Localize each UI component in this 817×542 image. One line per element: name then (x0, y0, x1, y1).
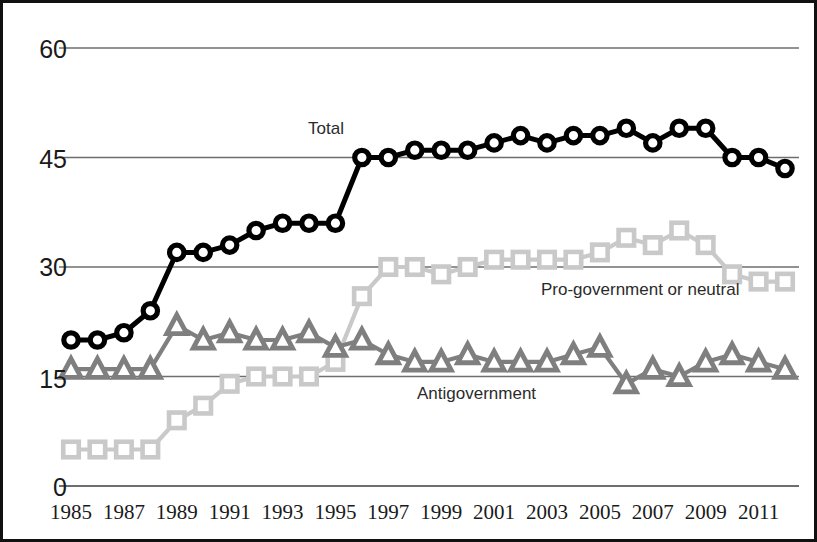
data-point (116, 442, 132, 458)
data-point (698, 237, 714, 253)
x-axis-tick-1989: 1989 (147, 500, 207, 525)
data-point (170, 245, 184, 259)
line-chart-plot (3, 3, 817, 542)
series-label-total: Total (308, 119, 344, 139)
data-point (778, 161, 792, 175)
data-point (698, 121, 712, 135)
x-axis-tick-2011: 2011 (729, 500, 789, 525)
data-point (696, 351, 716, 370)
x-axis-tick-1997: 1997 (358, 500, 418, 525)
data-point (90, 333, 104, 347)
data-point (222, 376, 238, 392)
data-point (487, 136, 501, 150)
data-point (672, 121, 686, 135)
x-axis-tick-1987: 1987 (94, 500, 154, 525)
data-point (273, 329, 293, 348)
data-point (619, 121, 633, 135)
x-axis-tick-1985: 1985 (41, 500, 101, 525)
series-label-pro-government: Pro-government or neutral (541, 280, 739, 300)
data-point (408, 143, 422, 157)
data-point (169, 413, 185, 429)
x-axis-tick-2001: 2001 (464, 500, 524, 525)
data-point (87, 359, 107, 378)
series-label-antigovernment: Antigovernment (417, 384, 536, 404)
data-point (299, 322, 319, 341)
data-point (246, 329, 266, 348)
data-point (511, 351, 531, 370)
data-point (355, 150, 369, 164)
data-point (566, 128, 580, 142)
data-point (63, 442, 79, 458)
y-axis-tick-0: 0 (7, 473, 67, 502)
data-point (434, 143, 448, 157)
data-point (90, 442, 106, 458)
data-point (484, 351, 504, 370)
data-point (114, 359, 134, 378)
data-point (275, 216, 289, 230)
data-point (328, 216, 342, 230)
data-point (381, 259, 397, 275)
y-axis-tick-45: 45 (7, 145, 67, 174)
data-point (777, 274, 793, 290)
x-axis-tick-1995: 1995 (305, 500, 365, 525)
data-point (352, 329, 372, 348)
data-point (222, 238, 236, 252)
data-point (301, 369, 317, 385)
data-point (460, 259, 476, 275)
data-point (354, 288, 370, 304)
series-antigovernment (61, 315, 795, 392)
data-point (566, 252, 582, 268)
data-point (592, 245, 608, 261)
data-point (539, 252, 555, 268)
y-axis-tick-15: 15 (7, 365, 67, 394)
x-axis-tick-2009: 2009 (676, 500, 736, 525)
data-point (249, 223, 263, 237)
data-point (143, 304, 157, 318)
data-point (513, 128, 527, 142)
x-axis-tick-1993: 1993 (253, 500, 313, 525)
y-axis-tick-30: 30 (7, 253, 67, 282)
data-point (749, 351, 769, 370)
data-point (431, 351, 451, 370)
data-point (195, 398, 211, 414)
data-point (196, 245, 210, 259)
data-point (378, 344, 398, 363)
x-axis-tick-1999: 1999 (411, 500, 471, 525)
data-point (220, 322, 240, 341)
data-point (671, 223, 687, 239)
data-point (593, 128, 607, 142)
data-point (751, 150, 765, 164)
data-point (751, 274, 767, 290)
data-point (619, 230, 635, 246)
data-point (669, 366, 689, 385)
data-point (302, 216, 316, 230)
data-point (643, 359, 663, 378)
data-point (537, 351, 557, 370)
data-point (460, 143, 474, 157)
data-point (167, 315, 187, 334)
data-point (64, 333, 78, 347)
x-axis-tick-1991: 1991 (200, 500, 260, 525)
data-point (486, 252, 502, 268)
data-point (143, 442, 159, 458)
x-axis-tick-2003: 2003 (517, 500, 577, 525)
data-point (563, 344, 583, 363)
data-point (193, 329, 213, 348)
data-point (725, 150, 739, 164)
data-point (381, 150, 395, 164)
data-point (646, 136, 660, 150)
chart-figure-frame: 60 45 30 15 0 19851987198919911993199519… (0, 0, 817, 542)
data-point (117, 326, 131, 340)
data-point (645, 237, 661, 253)
data-point (775, 359, 795, 378)
x-axis-tick-2007: 2007 (623, 500, 683, 525)
data-point (540, 136, 554, 150)
data-point (248, 369, 264, 385)
data-point (458, 344, 478, 363)
y-axis-tick-60: 60 (7, 35, 67, 64)
data-point (590, 337, 610, 356)
data-point (722, 344, 742, 363)
data-point (433, 267, 449, 283)
data-point (407, 259, 423, 275)
data-point (405, 351, 425, 370)
